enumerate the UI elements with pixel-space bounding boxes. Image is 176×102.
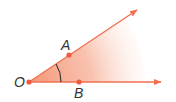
point-o xyxy=(26,79,31,84)
angle-sector xyxy=(29,18,145,82)
label-a: A xyxy=(60,37,70,53)
angle-diagram: O A B xyxy=(0,0,176,102)
point-a xyxy=(66,52,71,57)
label-b: B xyxy=(74,85,83,101)
label-o: O xyxy=(14,74,25,90)
point-b xyxy=(76,79,81,84)
